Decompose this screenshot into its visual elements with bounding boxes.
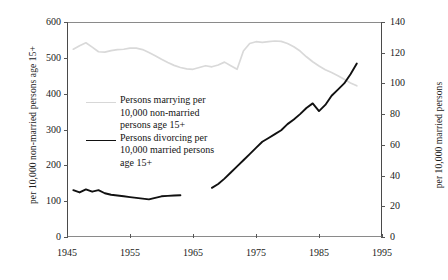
y-axis-left-tickmark	[64, 201, 68, 202]
x-axis-tickmark	[319, 234, 320, 238]
y-axis-right-tickmark	[381, 53, 385, 54]
divorce-line-swatch-icon	[86, 140, 116, 141]
y-axis-left-tick-label: 500	[27, 52, 61, 63]
x-axis-tickmark	[256, 234, 257, 238]
x-axis-tick-label: 1965	[173, 247, 213, 258]
x-axis-tick-label: 1955	[110, 247, 150, 258]
y-axis-right-tickmark	[381, 145, 385, 146]
legend-label-marrying: Persons marrying per 10,000 non-married …	[86, 94, 266, 132]
y-axis-left-tick-label: 400	[27, 88, 61, 99]
y-axis-right-tick-label: 40	[390, 170, 424, 181]
chart-container: per 10,000 non-married persons age 15+ p…	[0, 0, 448, 280]
x-axis-tick-label: 1985	[299, 247, 339, 258]
x-axis-tickmark	[130, 234, 131, 238]
legend-item-marrying: Persons marrying per 10,000 non-married …	[86, 94, 266, 132]
x-axis-tickmark	[67, 234, 68, 238]
y-axis-right-tickmark	[381, 114, 385, 115]
y-axis-left-tick-label: 200	[27, 159, 61, 170]
y-axis-left-tick-label: 100	[27, 195, 61, 206]
y-axis-left-tickmark	[64, 165, 68, 166]
x-axis-tick-label: 1995	[362, 247, 402, 258]
y-axis-left-tickmark	[64, 58, 68, 59]
y-axis-left-tick-label: 300	[27, 124, 61, 135]
y-axis-right-tick-label: 120	[390, 47, 424, 58]
y-axis-right-title: per 10,000 married persons	[434, 40, 444, 230]
x-axis-tick-label: 1975	[236, 247, 276, 258]
marry-line-swatch-icon	[86, 102, 116, 103]
y-axis-right-tick-label: 60	[390, 139, 424, 150]
y-axis-right-tick-label: 140	[390, 16, 424, 27]
x-axis-tickmark	[382, 234, 383, 238]
y-axis-right-tick-label: 80	[390, 108, 424, 119]
legend: Persons marrying per 10,000 non-married …	[86, 94, 266, 170]
y-axis-left-tick-label: 0	[27, 231, 61, 242]
y-axis-left-tickmark	[64, 22, 68, 23]
x-axis-tickmark	[193, 234, 194, 238]
legend-label-divorcing: Persons divorcing per 10,000 married per…	[86, 132, 266, 170]
y-axis-left-tickmark	[64, 130, 68, 131]
y-axis-right-tick-label: 100	[390, 77, 424, 88]
y-axis-right-tickmark	[381, 83, 385, 84]
y-axis-left-tick-label: 600	[27, 16, 61, 27]
x-axis-tick-label: 1945	[47, 247, 87, 258]
y-axis-right-tick-label: 20	[390, 200, 424, 211]
y-axis-right-tick-label: 0	[390, 231, 424, 242]
y-axis-left-tickmark	[64, 94, 68, 95]
y-axis-right-tickmark	[381, 206, 385, 207]
y-axis-right-tickmark	[381, 22, 385, 23]
y-axis-right-tickmark	[381, 176, 385, 177]
legend-item-divorcing: Persons divorcing per 10,000 married per…	[86, 132, 266, 170]
